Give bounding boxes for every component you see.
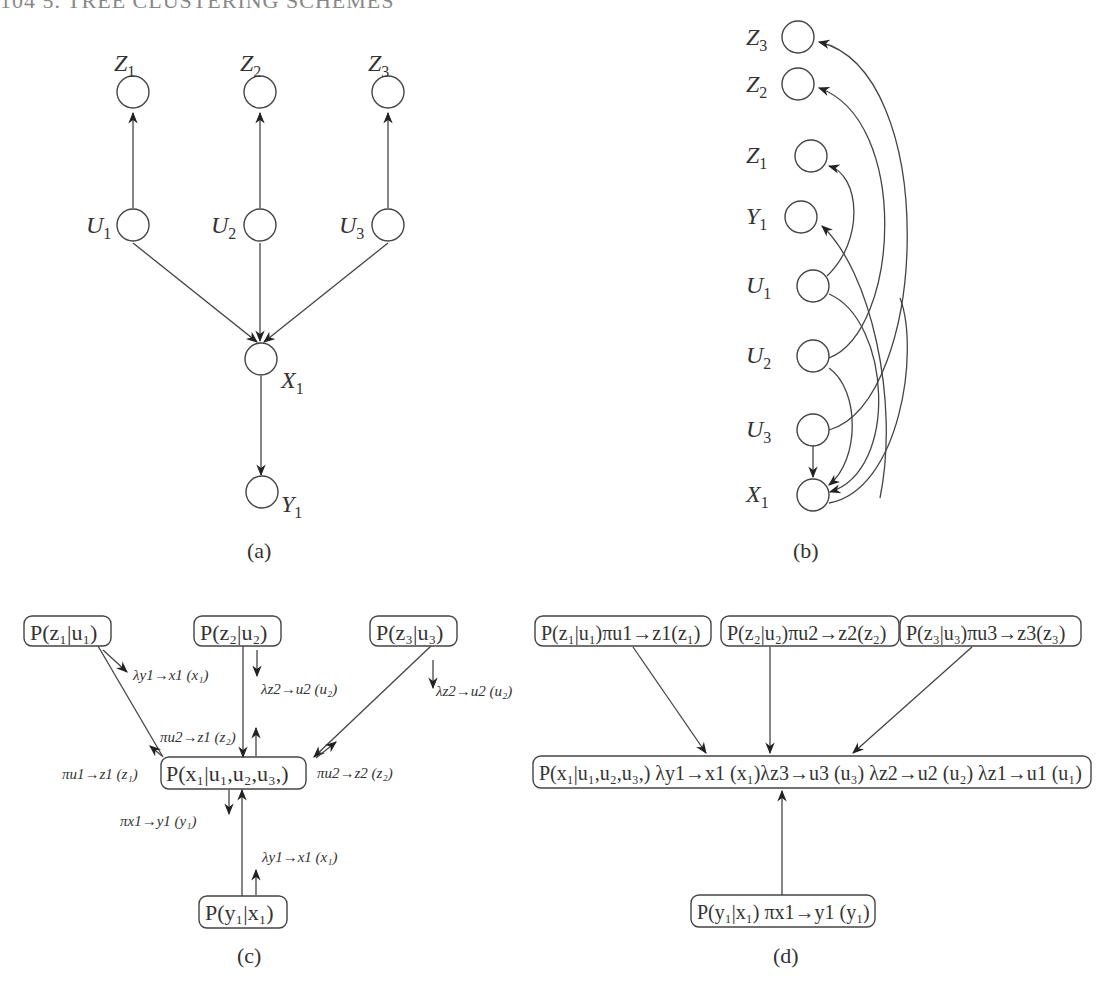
msg-pi-u2-z1: πu2→z1 (z₂) — [160, 729, 236, 746]
figure-canvas: Z1 Z2 Z3 U1 U2 U3 X1 Y1 (a) Z3 Z2 Z1 Y1 … — [0, 0, 1112, 995]
msg-lambda-z2-u2-a: λz2→u2 (u₂) — [260, 681, 337, 698]
label-b-x1: X1 — [745, 481, 769, 511]
edge-b-u2-z2 — [819, 88, 885, 358]
label-b-u3: U3 — [746, 416, 771, 446]
edge-u1-x1 — [133, 243, 257, 342]
node-b-u2 — [797, 340, 829, 372]
node-b-z2 — [782, 68, 814, 100]
label-z2: Z2 — [240, 50, 261, 80]
node-b-z1 — [795, 140, 827, 172]
text-d-2: P(z₂|u₂)πu2→z2(z₂) — [727, 622, 886, 645]
node-u1 — [117, 209, 149, 241]
msg-pi-u2-z2: πu2→z2 (z₂) — [317, 765, 393, 782]
arrow-c-pi-u3 — [316, 742, 336, 758]
label-b-u2: U2 — [746, 342, 771, 372]
edge-d-3-4 — [853, 647, 972, 753]
node-z3 — [372, 76, 404, 108]
node-x1 — [245, 343, 277, 375]
label-b-u1: U1 — [746, 272, 771, 302]
edge-u3-x1 — [264, 243, 388, 342]
label-x1: X1 — [280, 367, 304, 397]
msg-pi-x1-y1: πx1→y1 (y₁) — [120, 813, 196, 830]
node-b-u3 — [797, 414, 829, 446]
text-d-5: P(y₁|x₁) πx1→y1 (y₁) — [697, 901, 870, 924]
caption-c: (c) — [237, 943, 261, 968]
panel-c: P(z₁|u₁) P(z₂|u₂) P(z₃|u₃) P(x₁|u₁,u₂,u₃… — [24, 616, 512, 968]
text-pz3: P(z₃|u₃) — [376, 620, 443, 645]
node-u2 — [244, 209, 276, 241]
edge-b-u1-z1 — [827, 166, 854, 276]
node-b-y1 — [785, 201, 817, 233]
text-pz2: P(z₂|u₂) — [200, 620, 267, 645]
text-d-3: P(z₃|u₃)πu3→z3(z₃) — [906, 622, 1065, 645]
node-z1 — [117, 76, 149, 108]
node-b-x1 — [797, 479, 829, 511]
msg-lambda-y1-x1: λy1→x1 (x₁) — [132, 667, 208, 684]
msg-lambda-z2-u2-b: λz2→u2 (u₂) — [435, 683, 512, 700]
msg-lambda-y1-x1-b: λy1→x1 (x₁) — [261, 849, 337, 866]
label-z3: Z3 — [368, 50, 389, 80]
label-b-z3: Z3 — [746, 24, 767, 54]
text-d-1: P(z₁|u₁)πu1→z1(z₁) — [541, 622, 700, 645]
text-py1: P(y₁|x₁) — [205, 900, 274, 925]
edge-b-x1-y1 — [822, 226, 886, 498]
node-y1 — [246, 476, 278, 508]
node-z2 — [244, 76, 276, 108]
edge-c-pz3-px1 — [314, 646, 431, 757]
label-y1: Y1 — [281, 491, 302, 521]
caption-a: (a) — [247, 538, 271, 563]
text-pz1: P(z₁|u₁) — [30, 620, 97, 645]
label-u1: U1 — [86, 212, 111, 242]
msg-pi-u1-z1: πu1→z1 (z₁) — [62, 766, 138, 783]
edge-b-u2-x1 — [829, 368, 852, 485]
caption-b: (b) — [793, 538, 819, 563]
label-z1: Z1 — [114, 50, 135, 80]
node-b-z3 — [782, 21, 814, 53]
label-b-z2: Z2 — [746, 71, 767, 101]
label-b-z1: Z1 — [746, 142, 767, 172]
label-u2: U2 — [211, 212, 236, 242]
label-u3: U3 — [339, 212, 364, 242]
node-b-u1 — [797, 270, 829, 302]
edge-c-pz1-px1 — [98, 646, 163, 757]
text-d-4: P(x₁|u₁,u₂,u₃,) λy1→x1 (x₁)λz3→u3 (u₃) λ… — [539, 762, 1082, 785]
panel-d: P(z₁|u₁)πu1→z1(z₁) P(z₂|u₂)πu2→z2(z₂) P(… — [533, 616, 1091, 968]
edge-d-1-4 — [633, 647, 706, 753]
caption-d: (d) — [773, 943, 799, 968]
node-u3 — [372, 209, 404, 241]
label-b-y1: Y1 — [746, 203, 767, 233]
text-px1: P(x₁|u₁,u₂,u₃,) — [166, 761, 288, 786]
panel-b: Z3 Z2 Z1 Y1 U1 U2 U3 X1 (b) — [745, 21, 907, 563]
panel-a: Z1 Z2 Z3 U1 U2 U3 X1 Y1 (a) — [86, 50, 404, 563]
